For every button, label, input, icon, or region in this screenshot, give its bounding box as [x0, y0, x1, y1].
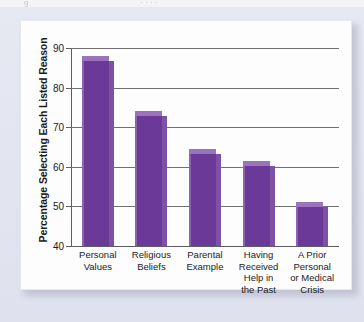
x-axis-label: A PriorPersonalor MedicalCrisis [285, 249, 339, 295]
y-axis-tick [66, 88, 71, 89]
x-axis-label-line: Crisis [285, 284, 339, 296]
x-axis-label-line: Personal [285, 261, 339, 273]
plot-area: 405060708090 [71, 48, 339, 246]
y-axis-title: Percentage Selecting Each Listed Reason [35, 29, 51, 251]
bar [189, 149, 216, 246]
bar-front-face [189, 154, 216, 246]
y-axis-tick [66, 127, 71, 128]
y-axis-tick-label: 50 [53, 201, 64, 212]
x-axis-label-line: or Medical [285, 272, 339, 284]
y-axis-tick-label: 90 [53, 43, 64, 54]
x-axis-label: ParentalExample [178, 249, 232, 272]
bar-side-face [109, 61, 114, 246]
gridline [71, 246, 339, 247]
x-axis-label-line: Values [71, 261, 125, 273]
x-axis-label-line: the Past [232, 284, 286, 296]
x-axis-label-line: Help in [232, 272, 286, 284]
gridline [71, 48, 339, 49]
bar-front-face [296, 207, 323, 246]
bar-front-face [82, 61, 109, 246]
bar-chart-figure: Percentage Selecting Each Listed Reason … [20, 20, 352, 290]
y-axis-tick [66, 246, 71, 247]
y-axis-tick [66, 206, 71, 207]
x-axis-label-line: Having [232, 249, 286, 261]
y-axis-tick-label: 60 [53, 161, 64, 172]
x-axis-label-line: Received [232, 261, 286, 273]
scan-top-text-sliver: g · · · · [0, 0, 364, 7]
x-axis-label-line: Parental [178, 249, 232, 261]
x-axis-label-line: Example [178, 261, 232, 273]
x-axis-label: ReligiousBeliefs [125, 249, 179, 272]
scan-fragment-left: g [24, 0, 28, 7]
y-axis-tick-label: 40 [53, 241, 64, 252]
bar-side-face [162, 116, 167, 246]
bar [135, 111, 162, 246]
bar-front-face [243, 166, 270, 246]
x-axis-category-labels: PersonalValuesReligiousBeliefsParentalEx… [71, 249, 339, 311]
x-axis-label: HavingReceivedHelp inthe Past [232, 249, 286, 295]
scan-fragment-right: · · · · [140, 0, 157, 7]
bar [296, 202, 323, 246]
y-axis-line [71, 48, 72, 246]
x-axis-label-line: A Prior [285, 249, 339, 261]
x-axis-label-line: Beliefs [125, 261, 179, 273]
y-axis-tick [66, 48, 71, 49]
y-axis-tick-label: 70 [53, 122, 64, 133]
x-axis-label: PersonalValues [71, 249, 125, 272]
x-axis-label-line: Religious [125, 249, 179, 261]
bar-front-face [135, 116, 162, 246]
y-axis-tick [66, 167, 71, 168]
bar-side-face [270, 166, 275, 246]
bar-side-face [323, 207, 328, 246]
y-axis-tick-label: 80 [53, 82, 64, 93]
bar [82, 56, 109, 246]
bar-side-face [216, 154, 221, 246]
bar [243, 161, 270, 246]
x-axis-label-line: Personal [71, 249, 125, 261]
